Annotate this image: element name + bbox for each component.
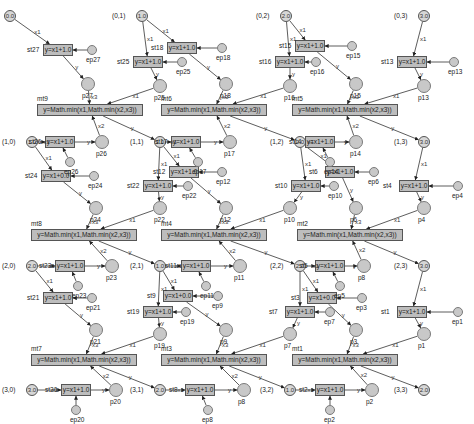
- step-transition[interactable]: y=x1+1.0: [181, 260, 211, 272]
- intermediate-place[interactable]: [349, 135, 363, 149]
- external-place[interactable]: [369, 167, 379, 177]
- step-transition[interactable]: y=x1+1.0: [397, 306, 427, 318]
- step-transition[interactable]: y=x1+1.0: [133, 56, 163, 68]
- min-transition[interactable]: y=Math.min(x1,Math.min(x2,x3)): [31, 354, 137, 366]
- grid-cell-place[interactable]: 2.0: [418, 384, 430, 396]
- intermediate-place[interactable]: [153, 327, 167, 341]
- external-place[interactable]: [325, 405, 335, 415]
- external-place[interactable]: [193, 157, 203, 167]
- grid-cell-place[interactable]: 3.0: [418, 10, 430, 22]
- grid-cell-place[interactable]: 0.0: [4, 10, 16, 22]
- external-place[interactable]: [453, 307, 463, 317]
- step-transition[interactable]: y=x1+1.0: [291, 180, 321, 192]
- step-transition[interactable]: y=x1+1.0: [397, 56, 427, 68]
- min-transition[interactable]: y=Math.min(x1,Math.min(x2,x3)): [37, 104, 143, 116]
- external-place[interactable]: [201, 281, 211, 291]
- intermediate-place[interactable]: [223, 135, 237, 149]
- step-transition[interactable]: y=x1+1.0: [295, 40, 325, 52]
- step-transition[interactable]: y=x1+1.0: [275, 56, 305, 68]
- intermediate-place[interactable]: [417, 201, 431, 215]
- external-place[interactable]: [65, 157, 75, 167]
- external-place[interactable]: [73, 281, 83, 291]
- min-transition[interactable]: y=Math.min(x1,Math.min(x2,x3)): [161, 354, 267, 366]
- step-transition[interactable]: y=x1+1.0: [55, 260, 85, 272]
- step-transition[interactable]: y=x1+1.0: [167, 42, 197, 54]
- intermediate-place[interactable]: [357, 259, 371, 273]
- intermediate-place[interactable]: [89, 323, 103, 337]
- intermediate-place[interactable]: [349, 201, 363, 215]
- external-place[interactable]: [217, 43, 227, 53]
- external-place[interactable]: [347, 41, 357, 51]
- grid-cell-place[interactable]: 3.0: [26, 384, 38, 396]
- intermediate-place[interactable]: [233, 259, 247, 273]
- step-transition[interactable]: y=x1+1.0: [315, 260, 345, 272]
- external-place[interactable]: [449, 57, 459, 67]
- external-place[interactable]: [87, 45, 97, 55]
- transition-label: st26: [29, 138, 41, 145]
- step-transition[interactable]: y=x1+1.0: [143, 306, 173, 318]
- external-place[interactable]: [177, 57, 187, 67]
- external-place[interactable]: [183, 181, 193, 191]
- grid-cell-place[interactable]: 3.0: [418, 136, 430, 148]
- intermediate-place[interactable]: [153, 201, 167, 215]
- intermediate-place[interactable]: [349, 77, 363, 91]
- external-place[interactable]: [87, 293, 97, 303]
- step-transition[interactable]: y=x1+1.0: [43, 292, 73, 304]
- intermediate-place[interactable]: [417, 327, 431, 341]
- external-place[interactable]: [329, 181, 339, 191]
- min-transition[interactable]: y=Math.min(x1,Math.min(x2,x3)): [297, 229, 403, 241]
- intermediate-place[interactable]: [283, 79, 297, 93]
- intermediate-place[interactable]: [89, 201, 103, 215]
- step-transition[interactable]: y=x1+1.0: [185, 384, 215, 396]
- step-transition[interactable]: y=x1+0.0: [307, 292, 337, 304]
- arc: [64, 182, 91, 204]
- intermediate-place[interactable]: [105, 259, 119, 273]
- intermediate-place[interactable]: [349, 323, 363, 337]
- external-place[interactable]: [453, 181, 463, 191]
- grid-cell-place[interactable]: 1.0: [284, 384, 296, 396]
- step-transition[interactable]: y=x1+0.0: [163, 290, 193, 302]
- grid-cell-label: (2,0): [2, 262, 15, 269]
- intermediate-place[interactable]: [417, 79, 431, 93]
- grid-cell-place[interactable]: 3.0: [418, 260, 430, 272]
- grid-cell-place[interactable]: 2.0: [280, 10, 292, 22]
- intermediate-place[interactable]: [81, 77, 95, 91]
- intermediate-place[interactable]: [153, 79, 167, 93]
- step-transition[interactable]: y=x1+1.0: [61, 384, 91, 396]
- external-place[interactable]: [311, 57, 321, 67]
- intermediate-place[interactable]: [219, 323, 233, 337]
- external-place[interactable]: [325, 307, 335, 317]
- grid-cell-place[interactable]: 2.0: [26, 260, 38, 272]
- step-transition[interactable]: y=x1+1.0: [43, 44, 73, 56]
- grid-cell-place[interactable]: 1.0: [136, 10, 148, 22]
- step-transition[interactable]: y=x1+1.0: [143, 180, 173, 192]
- external-place[interactable]: [335, 281, 345, 291]
- step-transition[interactable]: y=x1+1.0: [285, 306, 315, 318]
- external-place[interactable]: [213, 291, 223, 301]
- min-transition[interactable]: y=Math.min(x1,Math.min(x2,x3)): [292, 104, 398, 116]
- place-label: p13: [418, 94, 429, 101]
- external-place[interactable]: [181, 307, 191, 317]
- intermediate-place[interactable]: [237, 383, 251, 397]
- min-transition[interactable]: y=Math.min(x1,Math.min(x2,x3)): [161, 229, 267, 241]
- min-transition[interactable]: y=Math.min(x1,Math.min(x2,x3)): [161, 104, 267, 116]
- intermediate-place[interactable]: [219, 201, 233, 215]
- step-transition[interactable]: y=x1+1.0: [315, 384, 345, 396]
- intermediate-place[interactable]: [219, 77, 233, 91]
- step-transition[interactable]: y=x1+1.0: [399, 180, 429, 192]
- external-place[interactable]: [217, 167, 227, 177]
- intermediate-place[interactable]: [95, 135, 109, 149]
- intermediate-place[interactable]: [283, 327, 297, 341]
- arc-label: y: [129, 374, 132, 380]
- grid-cell-place[interactable]: 2.0: [154, 384, 166, 396]
- intermediate-place[interactable]: [365, 383, 379, 397]
- external-place[interactable]: [71, 405, 81, 415]
- external-place[interactable]: [89, 171, 99, 181]
- min-transition[interactable]: y=Math.min(x1,Math.min(x2,x3)): [31, 229, 137, 241]
- min-transition[interactable]: y=Math.min(x1,Math.min(x2,x3)): [292, 354, 398, 366]
- external-place[interactable]: [357, 293, 367, 303]
- intermediate-place[interactable]: [109, 383, 123, 397]
- external-place[interactable]: [203, 405, 213, 415]
- arc-label: x2: [361, 372, 367, 378]
- intermediate-place[interactable]: [283, 201, 297, 215]
